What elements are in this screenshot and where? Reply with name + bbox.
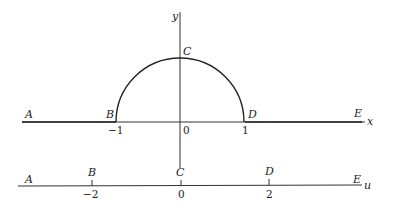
lower-point-e-label: E — [352, 173, 361, 186]
lower-tick-label-0: 0 — [178, 188, 185, 200]
lower-point-c-label: C — [176, 166, 185, 179]
lower-point-d-label: D — [264, 165, 274, 178]
u-axis — [18, 185, 362, 186]
tick-label-1: 1 — [242, 124, 249, 136]
point-e-label: E — [353, 107, 362, 120]
point-b-label: B — [105, 108, 114, 121]
y-axis-label: y — [171, 10, 179, 23]
point-d-label: D — [247, 108, 257, 121]
point-c-label: C — [183, 45, 192, 58]
mapping-diagram: y C A B D E x −1 0 1 A B C D E u −2 0 2 — [0, 0, 393, 207]
tick-label-neg1: −1 — [108, 124, 123, 136]
lower-point-a-label: A — [24, 173, 33, 186]
u-axis-label: u — [364, 179, 371, 192]
lower-point-b-label: B — [87, 166, 96, 179]
tick-label-0: 0 — [183, 124, 190, 136]
lower-tick-label-2: 2 — [266, 188, 273, 200]
x-axis-label: x — [367, 115, 374, 128]
point-a-label: A — [24, 108, 33, 121]
lower-tick-label-neg2: −2 — [83, 188, 98, 200]
